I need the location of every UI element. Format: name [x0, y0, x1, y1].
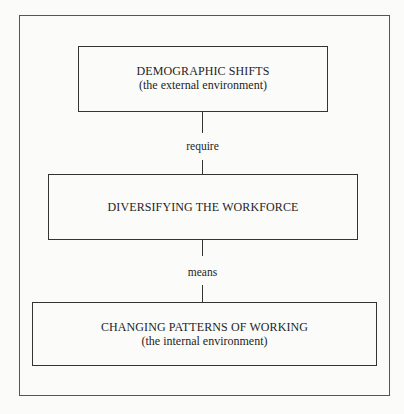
node-title: CHANGING PATTERNS OF WORKING: [101, 320, 308, 334]
node-subtitle: (the external environment): [139, 78, 267, 92]
node-subtitle: (the internal environment): [142, 334, 268, 348]
edge-label-means: means: [152, 265, 253, 279]
connector-line: [202, 285, 203, 302]
node-diversifying-workforce: DIVERSIFYING THE WORKFORCE: [48, 174, 358, 240]
edge-label-require: require: [152, 139, 253, 153]
node-changing-patterns-of-working: CHANGING PATTERNS OF WORKING (the intern…: [32, 302, 377, 366]
node-title: DIVERSIFYING THE WORKFORCE: [108, 200, 299, 214]
connector-line: [202, 240, 203, 256]
node-demographic-shifts: DEMOGRAPHIC SHIFTS (the external environ…: [78, 46, 328, 112]
node-title: DEMOGRAPHIC SHIFTS: [137, 64, 270, 78]
connector-line: [202, 112, 203, 133]
connector-line: [202, 160, 203, 174]
